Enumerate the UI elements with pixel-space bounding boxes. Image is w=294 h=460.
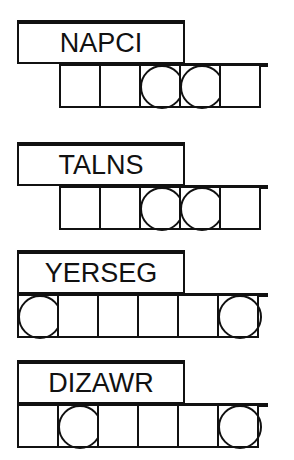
answer-cells — [17, 294, 259, 338]
circled-answer-cell[interactable] — [179, 64, 221, 108]
answer-cell[interactable] — [137, 404, 179, 448]
answer-cell[interactable] — [99, 186, 141, 230]
scrambled-word: DIZAWR — [17, 360, 185, 404]
answer-cell[interactable] — [97, 404, 139, 448]
answer-cell[interactable] — [177, 404, 219, 448]
answer-cell[interactable] — [97, 294, 139, 338]
circled-answer-cell[interactable] — [179, 186, 221, 230]
answer-cell[interactable] — [59, 64, 101, 108]
answer-cell[interactable] — [59, 186, 101, 230]
answer-cell[interactable] — [219, 64, 261, 108]
answer-cell[interactable] — [219, 186, 261, 230]
answer-cell[interactable] — [99, 64, 141, 108]
answer-cell[interactable] — [137, 294, 179, 338]
circled-answer-cell[interactable] — [139, 186, 181, 230]
answer-cell[interactable] — [17, 404, 59, 448]
answer-cells — [17, 404, 259, 448]
scrambled-word: NAPCI — [17, 20, 185, 64]
answer-cells — [59, 64, 261, 108]
scrambled-word: YERSEG — [17, 250, 185, 294]
answer-cell[interactable] — [57, 294, 99, 338]
answer-cell[interactable] — [177, 294, 219, 338]
circled-answer-cell[interactable] — [217, 294, 259, 338]
circled-answer-cell[interactable] — [217, 404, 259, 448]
circled-answer-cell[interactable] — [57, 404, 99, 448]
answer-cells — [59, 186, 261, 230]
circled-answer-cell[interactable] — [139, 64, 181, 108]
scrambled-word: TALNS — [17, 142, 185, 186]
circled-answer-cell[interactable] — [17, 294, 59, 338]
